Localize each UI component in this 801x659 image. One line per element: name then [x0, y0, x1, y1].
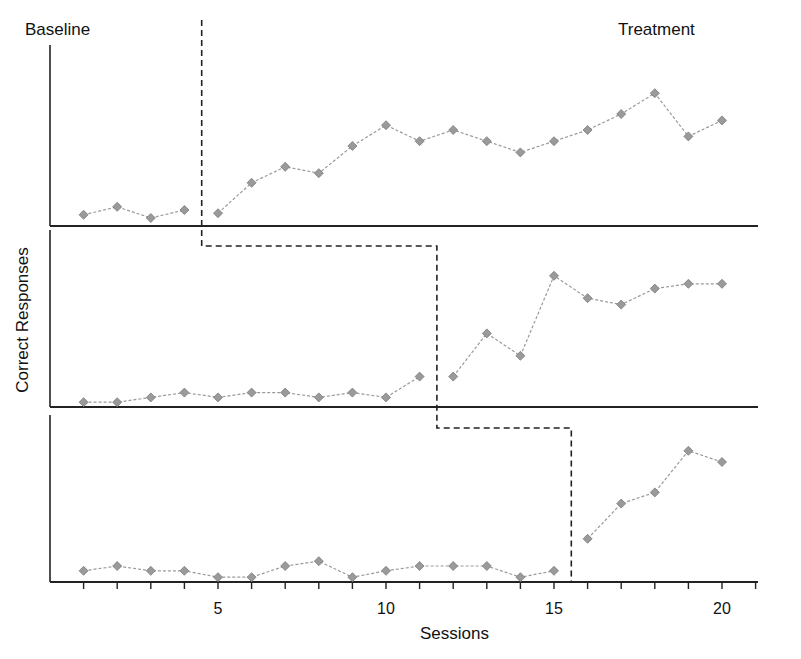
diamond-marker: [617, 300, 626, 309]
diamond-marker: [247, 388, 256, 397]
diamond-marker: [684, 446, 693, 455]
diamond-marker: [79, 210, 88, 219]
data-series: [79, 89, 726, 582]
diamond-marker: [348, 388, 357, 397]
diamond-marker: [550, 271, 559, 280]
diamond-marker: [583, 294, 592, 303]
diamond-marker: [516, 351, 525, 360]
x-tick-label-5: 5: [214, 600, 223, 618]
axes: [50, 45, 758, 589]
x-tick-label-15: 15: [545, 600, 563, 618]
diamond-marker: [146, 393, 155, 402]
diamond-marker: [180, 566, 189, 575]
baseline-label: Baseline: [25, 20, 90, 40]
diamond-marker: [482, 562, 491, 571]
diamond-marker: [113, 398, 122, 407]
x-axis-label: Sessions: [420, 624, 489, 644]
diamond-marker: [482, 137, 491, 146]
diamond-marker: [415, 372, 424, 381]
diamond-marker: [449, 562, 458, 571]
diamond-marker: [281, 562, 290, 571]
diamond-marker: [617, 499, 626, 508]
diamond-marker: [516, 573, 525, 582]
diamond-marker: [583, 534, 592, 543]
diamond-marker: [281, 162, 290, 171]
diamond-marker: [415, 562, 424, 571]
y-axis-label: Correct Responses: [13, 247, 33, 393]
diamond-marker: [449, 372, 458, 381]
diamond-marker: [550, 137, 559, 146]
diamond-marker: [247, 573, 256, 582]
multiple-baseline-chart: [0, 0, 801, 659]
diamond-marker: [382, 566, 391, 575]
diamond-marker: [281, 388, 290, 397]
diamond-marker: [113, 202, 122, 211]
diamond-marker: [415, 137, 424, 146]
treatment-label: Treatment: [618, 20, 695, 40]
diamond-marker: [382, 121, 391, 130]
diamond-marker: [718, 279, 727, 288]
diamond-marker: [650, 284, 659, 293]
diamond-marker: [79, 566, 88, 575]
diamond-marker: [617, 110, 626, 119]
diamond-marker: [180, 206, 189, 215]
diamond-marker: [650, 89, 659, 98]
diamond-marker: [516, 148, 525, 157]
diamond-marker: [146, 214, 155, 223]
x-tick-label-10: 10: [377, 600, 395, 618]
diamond-marker: [314, 393, 323, 402]
x-tick-label-20: 20: [713, 600, 731, 618]
phase-change-line: [202, 20, 572, 582]
diamond-marker: [180, 388, 189, 397]
diamond-marker: [214, 573, 223, 582]
diamond-marker: [348, 573, 357, 582]
series-line: [218, 93, 722, 213]
diamond-marker: [583, 126, 592, 135]
diamond-marker: [146, 566, 155, 575]
diamond-marker: [113, 562, 122, 571]
diamond-marker: [79, 398, 88, 407]
diamond-marker: [650, 488, 659, 497]
diamond-marker: [449, 126, 458, 135]
series-line: [84, 207, 185, 218]
diamond-marker: [718, 458, 727, 467]
diamond-marker: [214, 393, 223, 402]
diamond-marker: [718, 116, 727, 125]
diamond-marker: [550, 566, 559, 575]
series-line: [453, 276, 722, 377]
diamond-marker: [214, 209, 223, 218]
diamond-marker: [382, 393, 391, 402]
diamond-marker: [314, 557, 323, 566]
diamond-marker: [684, 279, 693, 288]
